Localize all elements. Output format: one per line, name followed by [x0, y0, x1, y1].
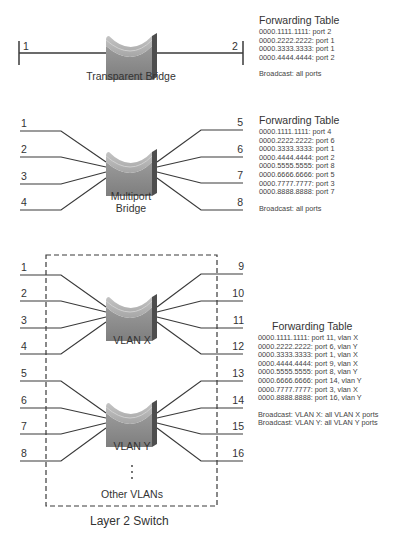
port-label: 7: [237, 169, 243, 181]
layer2-switch-section: 1 2 3 4 9 10 11 12 VLAN X 5 6 7 8 13: [20, 255, 244, 506]
port-label: 14: [232, 394, 244, 406]
bridging-diagram: 1 2 Transparent Bridge 1 2 3 4 5 6 7 8 M…: [0, 0, 402, 544]
multiport-bridge-section: 1 2 3 4 5 6 7 8 Multiport Bridge: [20, 116, 243, 214]
port-label: 15: [232, 420, 244, 432]
port-label: 2: [21, 287, 27, 299]
port-label: 3: [21, 170, 27, 182]
forwarding-table-transparent: Forwarding Table 0000.1111.1111: port 2 …: [259, 14, 339, 79]
bridge-label: Multiport: [111, 190, 151, 202]
port-label: 5: [21, 367, 27, 379]
vlan-label: VLAN Y: [113, 440, 150, 452]
port-label: 9: [238, 260, 244, 272]
port-label: 6: [21, 394, 27, 406]
vlan-y-group: 5 6 7 8 13 14 15 16 VLAN Y: [20, 367, 244, 461]
ellipsis-icon: [131, 465, 133, 479]
port-label: 11: [233, 314, 244, 326]
broadcast-rule: Broadcast: VLAN Y: all VLAN Y ports: [258, 419, 378, 428]
port-label: 12: [232, 340, 244, 352]
switch-boundary: [46, 255, 217, 506]
forwarding-table-multiport: Forwarding Table 0000.1111.1111: port 4 …: [259, 114, 339, 213]
switch-title: Layer 2 Switch: [90, 514, 169, 528]
broadcast-rule: Broadcast: all ports: [259, 205, 339, 214]
port-label: 6: [237, 143, 243, 155]
other-vlans-label: Other VLANs: [101, 488, 163, 500]
port-label: 10: [232, 287, 244, 299]
table-title: Forwarding Table: [259, 114, 339, 126]
port-label: 4: [21, 196, 27, 208]
port-label: 4: [21, 340, 27, 352]
bridge-label: Bridge: [116, 202, 147, 214]
port-label: 2: [21, 143, 27, 155]
port-label: 3: [21, 314, 27, 326]
vlan-x-group: 1 2 3 4 9 10 11 12 VLAN X: [20, 260, 244, 354]
broadcast-rule: Broadcast: all ports: [259, 70, 339, 79]
port-label: 13: [232, 367, 244, 379]
transparent-bridge-section: 1 2 Transparent Bridge: [19, 33, 243, 82]
port-label: 5: [237, 116, 243, 128]
table-title: Forwarding Table: [259, 14, 339, 26]
port-label: 8: [21, 447, 27, 459]
table-title: Forwarding Table: [272, 320, 378, 332]
table-row: 0000.8888.8888: port 7: [259, 188, 339, 197]
forwarding-table-switch: Forwarding Table 0000.1111.1111: port 11…: [258, 320, 378, 428]
port-label: 2: [232, 40, 238, 52]
bridge-label: Transparent Bridge: [86, 70, 176, 82]
vlan-label: VLAN X: [113, 334, 150, 346]
port-label: 1: [23, 40, 29, 52]
port-label: 16: [232, 447, 244, 459]
table-row: 0000.4444.4444: port 2: [259, 54, 339, 63]
port-label: 1: [21, 261, 27, 273]
port-label: 8: [237, 196, 243, 208]
bridge-icon: [106, 149, 157, 196]
table-row: 0000.8888.8888: port 16, vlan Y: [258, 394, 378, 403]
port-label: 7: [21, 420, 27, 432]
port-label: 1: [21, 117, 27, 129]
